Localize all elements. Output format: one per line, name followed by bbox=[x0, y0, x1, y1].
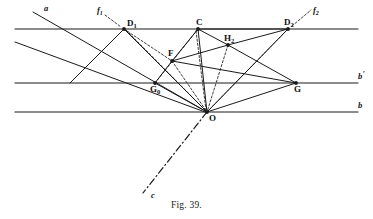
point-label-subscript: 1 bbox=[134, 22, 137, 29]
figure-caption: Fig. 39. bbox=[0, 200, 373, 210]
line-c bbox=[143, 112, 207, 193]
point-label-d2: D2 bbox=[284, 17, 294, 28]
D1-O bbox=[124, 29, 207, 112]
figure-39-container: D1CD2H2FG0GO af1f2cb'b Fig. 39. bbox=[0, 0, 373, 219]
point-label-c: C bbox=[196, 17, 203, 27]
C-O bbox=[198, 29, 207, 112]
point-label-g: G bbox=[294, 84, 301, 94]
H2-D2 bbox=[228, 29, 288, 45]
solid-segments-group bbox=[15, 12, 296, 112]
F-G bbox=[172, 61, 296, 83]
point-label-o: O bbox=[209, 113, 216, 123]
point-marker-d1 bbox=[122, 27, 126, 31]
F-O-d bbox=[172, 61, 207, 112]
label-f1: f1 bbox=[97, 5, 103, 16]
label-f2: f2 bbox=[313, 5, 319, 16]
point-markers-group bbox=[122, 27, 298, 114]
point-label-g0: G0 bbox=[150, 84, 160, 95]
point-label-subscript: 0 bbox=[157, 88, 160, 95]
line-label-subscript: 1 bbox=[100, 10, 103, 16]
point-marker-c bbox=[196, 27, 200, 31]
point-label-f: F bbox=[168, 48, 174, 58]
point-marker-d2 bbox=[286, 27, 290, 31]
label-a: a bbox=[44, 3, 49, 13]
D1-F-d bbox=[124, 29, 172, 61]
figure-39-drawing: D1CD2H2FG0GO af1f2cb'b bbox=[0, 0, 373, 219]
line-label-subscript: ' bbox=[362, 69, 365, 79]
label-b: b bbox=[358, 100, 362, 110]
label-bprime: b' bbox=[358, 69, 365, 81]
point-label-h2: H2 bbox=[224, 33, 234, 44]
horizontal-lines-group bbox=[15, 29, 358, 112]
point-marker-f bbox=[170, 59, 174, 63]
G-O bbox=[207, 83, 296, 112]
f2-tick bbox=[292, 10, 311, 26]
line-a-par bbox=[15, 42, 205, 112]
G0-O bbox=[155, 83, 207, 112]
G0-Cd bbox=[155, 29, 198, 83]
f1-tick bbox=[105, 15, 121, 27]
line-label-subscript: 2 bbox=[315, 10, 319, 16]
point-label-subscript: 2 bbox=[231, 37, 234, 44]
label-c: c bbox=[151, 190, 155, 200]
point-label-d1: D1 bbox=[127, 18, 137, 29]
dashdot-segments-group bbox=[143, 112, 207, 193]
point-label-subscript: 2 bbox=[291, 21, 294, 28]
D1-G0-ext bbox=[70, 29, 124, 83]
point-marker-h2 bbox=[226, 43, 230, 47]
